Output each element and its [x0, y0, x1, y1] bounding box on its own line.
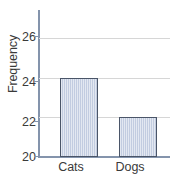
- gridline-26: [39, 38, 170, 39]
- gridline-24: [39, 78, 170, 79]
- y-tick-label-20: 20: [14, 151, 36, 164]
- y-tick-label-24: 24: [14, 76, 36, 89]
- y-tick-label-22: 22: [14, 116, 36, 129]
- bar-chart: Frequency 26 24 22 20 Cats Dogs: [0, 0, 175, 194]
- y-axis-tick-labels: 26 24 22 20: [12, 0, 36, 194]
- bar-dogs: [119, 117, 157, 157]
- bar-cats: [60, 78, 98, 157]
- x-category-label-dogs: Dogs: [105, 161, 155, 174]
- plot-area: [39, 22, 170, 157]
- y-tick-label-26: 26: [14, 31, 36, 44]
- x-category-label-cats: Cats: [46, 161, 96, 174]
